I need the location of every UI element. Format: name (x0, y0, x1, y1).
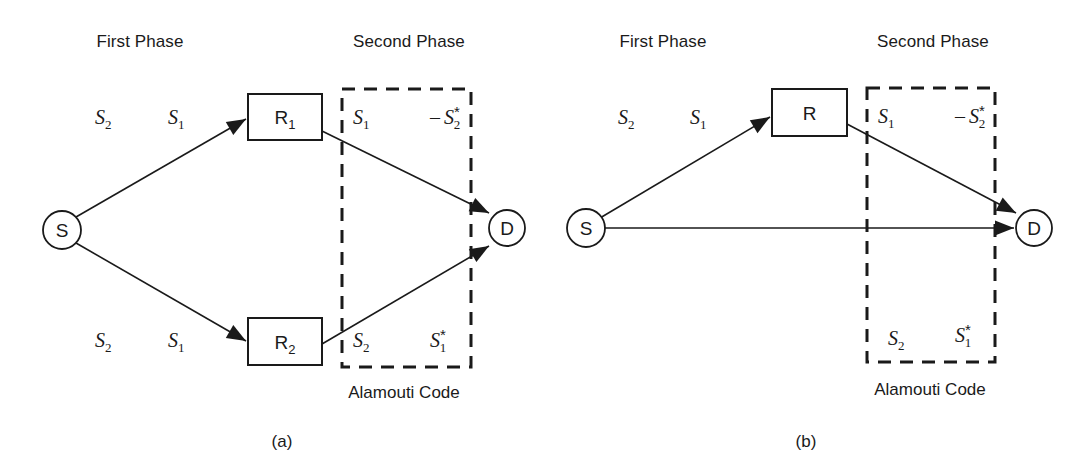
symbol-s1-first-phase-top: S1 (168, 106, 185, 132)
symbol-s2-second-phase-base: S (888, 327, 898, 349)
symbol-minus-s2-star-base: S (969, 105, 979, 127)
alamouti-code-caption: Alamouti Code (348, 383, 460, 402)
symbol-minus-s2-star-subscript: 2 (454, 117, 461, 132)
symbol-s2-second-phase-subscript: 2 (898, 338, 905, 353)
symbol-s1-first-phase-base: S (690, 106, 700, 128)
symbol-s2-first-phase-base: S (618, 106, 628, 128)
symbol-s1-first-phase-top-base: S (168, 106, 178, 128)
symbol-s2-first-phase-top-subscript: 2 (105, 117, 112, 132)
edge-source-to-r2 (76, 243, 246, 341)
relay-node-r2-subscript: 2 (288, 342, 295, 357)
symbol-s1-first-phase-bottom: S1 (168, 329, 185, 355)
phase-label-first-phase: First Phase (619, 32, 706, 51)
symbol-s2-first-phase-bottom: S2 (95, 329, 112, 355)
edge-source-to-r1-arrowhead-icon (226, 119, 246, 135)
symbol-minus-s2-star-minus-sign: – (954, 105, 969, 127)
symbol-s2-first-phase-bottom-subscript: 2 (105, 340, 112, 355)
edge-relay-to-destination (847, 124, 1016, 213)
symbol-s1-star-base: S (955, 324, 965, 346)
edge-source-to-destination (605, 221, 1014, 236)
symbol-s2-first-phase-subscript: 2 (628, 117, 635, 132)
symbol-s1-second-phase-r1-base: S (353, 106, 363, 128)
edge-source-to-r1-line (76, 119, 246, 217)
relay-node-r2: R2 (248, 318, 322, 365)
symbol-s1-star: S*1 (430, 326, 446, 355)
phase-label-first-phase: First Phase (96, 32, 183, 51)
symbol-minus-s2-star-minus-sign: – (429, 106, 444, 128)
symbol-s1-star: S*1 (955, 321, 971, 350)
symbol-s1-second-phase-subscript: 1 (888, 116, 895, 131)
panel-b: First PhaseSecond PhaseSRDS2S1S1– S*2S2S… (567, 32, 1052, 451)
edge-r1-to-destination-line (322, 131, 489, 213)
edge-source-to-relay-line (600, 117, 770, 218)
edge-source-to-r2-arrowhead-icon (226, 325, 246, 341)
edge-source-to-r2-line (76, 243, 246, 341)
alamouti-code-box (342, 89, 471, 367)
edge-r2-to-destination (322, 246, 489, 344)
destination-node-label: D (500, 218, 514, 239)
symbol-s1-first-phase-top-subscript: 1 (178, 117, 185, 132)
symbol-s1-star-subscript: 1 (440, 340, 447, 355)
alamouti-code-box (867, 88, 995, 362)
symbol-s2-first-phase: S2 (618, 106, 635, 132)
edge-relay-to-destination-line (847, 124, 1016, 213)
symbol-s2-first-phase-top: S2 (95, 106, 112, 132)
diagram-render-root: First PhaseSecond PhaseSR1R2DS2S1S2S1S1–… (43, 32, 1052, 451)
destination-node: D (1016, 210, 1052, 246)
symbol-s1-first-phase-subscript: 1 (700, 117, 707, 132)
source-node-label: S (56, 220, 69, 241)
source-node: S (43, 211, 81, 249)
edge-source-to-relay (600, 117, 770, 218)
symbol-s1-star-base: S (430, 329, 440, 351)
edge-r1-to-destination (322, 131, 489, 213)
figure-container: First PhaseSecond PhaseSR1R2DS2S1S2S1S1–… (0, 0, 1088, 469)
symbol-s1-star-subscript: 1 (965, 335, 972, 350)
edge-relay-to-destination-arrowhead-icon (996, 198, 1016, 213)
relay-node-r: R (772, 89, 847, 136)
source-node-label: S (580, 218, 593, 239)
source-node: S (567, 209, 605, 247)
symbol-s1-second-phase: S1 (878, 105, 895, 131)
symbol-s2-second-phase: S2 (888, 327, 905, 353)
panel-caption-a: (a) (272, 432, 293, 451)
symbol-s1-first-phase-bottom-base: S (168, 329, 178, 351)
symbol-s1-second-phase-r1-subscript: 1 (363, 117, 370, 132)
symbol-minus-s2-star-base: S (444, 106, 454, 128)
edge-r1-to-destination-arrowhead-icon (469, 198, 489, 213)
relay-node-r1-subscript: 1 (288, 117, 295, 132)
symbol-s1-first-phase: S1 (690, 106, 707, 132)
symbol-s2-second-phase-r2: S2 (353, 329, 370, 355)
relay-node-r1: R1 (248, 94, 322, 140)
destination-node: D (489, 210, 525, 246)
edge-source-to-destination-arrowhead-icon (995, 221, 1014, 236)
edge-source-to-relay-arrowhead-icon (750, 117, 770, 133)
relay-network-diagram: First PhaseSecond PhaseSR1R2DS2S1S2S1S1–… (0, 0, 1088, 469)
phase-label-second-phase: Second Phase (353, 32, 465, 51)
symbol-s2-first-phase-bottom-base: S (95, 329, 105, 351)
alamouti-code-caption: Alamouti Code (874, 380, 986, 399)
symbol-s2-second-phase-r2-subscript: 2 (363, 340, 370, 355)
edge-r2-to-destination-line (322, 246, 489, 344)
destination-node-label: D (1027, 218, 1041, 239)
symbol-minus-s2-star-subscript: 2 (979, 116, 986, 131)
panel-caption-b: (b) (796, 432, 817, 451)
symbol-s2-second-phase-r2-base: S (353, 329, 363, 351)
phase-label-second-phase: Second Phase (877, 32, 989, 51)
symbol-s1-first-phase-bottom-subscript: 1 (178, 340, 185, 355)
relay-node-r-label: R (803, 103, 817, 124)
edge-source-to-r1 (76, 119, 246, 217)
symbol-s1-second-phase-base: S (878, 105, 888, 127)
symbol-s1-second-phase-r1: S1 (353, 106, 370, 132)
panel-a: First PhaseSecond PhaseSR1R2DS2S1S2S1S1–… (43, 32, 525, 451)
symbol-minus-s2-star: – S*2 (429, 103, 460, 132)
symbol-s2-first-phase-top-base: S (95, 106, 105, 128)
symbol-minus-s2-star: – S*2 (954, 102, 985, 131)
